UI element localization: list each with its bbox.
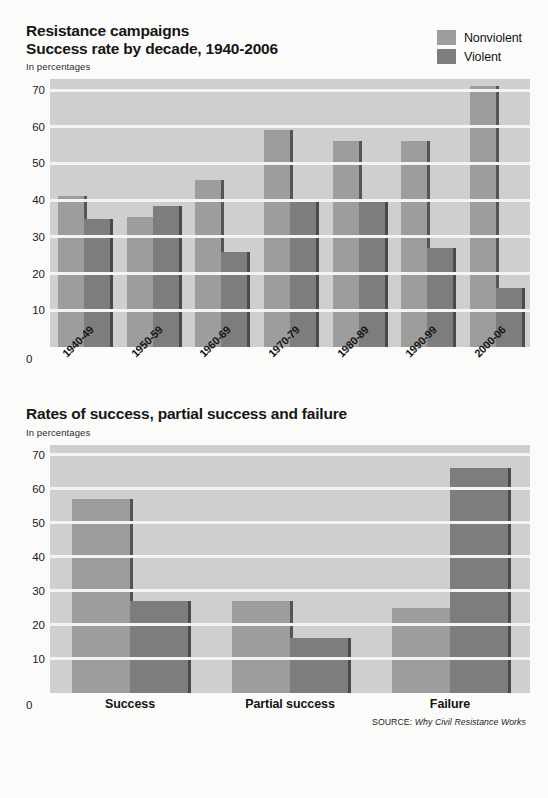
y-axis-tick-60: 60 bbox=[32, 483, 45, 495]
y-axis-zero-label-outcomes: 0 bbox=[26, 699, 32, 711]
x-axis-decade: 1940-491950-591960-691970-791980-891990-… bbox=[50, 347, 530, 393]
gridline-60 bbox=[50, 125, 530, 128]
legend-swatch-violent bbox=[437, 49, 456, 64]
bar-nonviolent-success bbox=[72, 499, 130, 693]
x-axis-label-slot: 1950-59 bbox=[119, 347, 188, 393]
legend-swatch-nonviolent bbox=[437, 30, 456, 45]
legend-item-nonviolent: Nonviolent bbox=[437, 30, 522, 45]
x-axis-label-failure: Failure bbox=[370, 697, 530, 711]
title-line-1-2: Rates of success, partial success and fa… bbox=[26, 405, 548, 423]
x-axis-label-success: Success bbox=[50, 697, 210, 711]
plot-area-decade: 10203040506070 1940-491950-591960-691970… bbox=[0, 79, 548, 393]
bar-group bbox=[324, 79, 393, 347]
bar-nonviolent-failure bbox=[392, 608, 450, 693]
bar-group bbox=[50, 79, 119, 347]
plot-area-outcomes: 10203040506070 SuccessPartial successFai… bbox=[0, 445, 548, 739]
bar-series-outcomes bbox=[50, 445, 530, 693]
y-axis-outcomes: 10203040506070 bbox=[26, 445, 50, 693]
chart-panel-outcomes: Rates of success, partial success and fa… bbox=[0, 393, 548, 739]
bar-violent-success bbox=[130, 601, 188, 693]
chart-panel-decade: Resistance campaigns Success rate by dec… bbox=[0, 0, 548, 393]
gridline-60 bbox=[50, 487, 530, 490]
y-axis-tick-40: 40 bbox=[32, 194, 45, 206]
bar-nonviolent-partial-success bbox=[232, 601, 290, 693]
x-axis-label-slot: 1970-79 bbox=[256, 347, 325, 393]
chart-header: Resistance campaigns Success rate by dec… bbox=[0, 22, 548, 72]
y-axis-tick-10: 10 bbox=[32, 304, 45, 316]
x-axis-label-partial-success: Partial success bbox=[210, 697, 370, 711]
gridline-10 bbox=[50, 657, 530, 660]
x-axis-label-slot: 1960-69 bbox=[187, 347, 256, 393]
bar-series-decade bbox=[50, 79, 530, 347]
gridline-10 bbox=[50, 309, 530, 312]
bar-group bbox=[256, 79, 325, 347]
x-axis-label-slot: Failure bbox=[370, 693, 530, 739]
chart-subtitle-2: In percentages bbox=[26, 427, 548, 438]
bar-group bbox=[119, 79, 188, 347]
y-axis-tick-10: 10 bbox=[32, 653, 45, 665]
gridline-20 bbox=[50, 272, 530, 275]
x-axis-outcomes: SuccessPartial successFailure bbox=[50, 693, 530, 739]
legend-label-violent: Violent bbox=[464, 50, 501, 64]
gridline-40 bbox=[50, 199, 530, 202]
y-axis-tick-30: 30 bbox=[32, 585, 45, 597]
bar-group bbox=[210, 445, 370, 693]
y-axis-tick-50: 50 bbox=[32, 517, 45, 529]
y-axis-tick-50: 50 bbox=[32, 157, 45, 169]
y-axis-tick-30: 30 bbox=[32, 231, 45, 243]
bar-nonviolent-1960-69 bbox=[195, 180, 221, 347]
infographic-page: Resistance campaigns Success rate by dec… bbox=[0, 0, 548, 798]
gridline-70 bbox=[50, 89, 530, 92]
x-axis-label-slot: Partial success bbox=[210, 693, 370, 739]
source-work-title: Why Civil Resistance Works bbox=[415, 717, 526, 727]
x-axis-label-slot: Success bbox=[50, 693, 210, 739]
bar-group bbox=[50, 445, 210, 693]
gridline-30 bbox=[50, 235, 530, 238]
gridline-40 bbox=[50, 555, 530, 558]
y-axis-tick-20: 20 bbox=[32, 268, 45, 280]
x-axis-label-slot: 2000-06 bbox=[461, 347, 530, 393]
plot-canvas-decade bbox=[50, 79, 530, 347]
chart-header-2: Rates of success, partial success and fa… bbox=[0, 405, 548, 438]
plot-canvas-outcomes bbox=[50, 445, 530, 693]
x-axis-label-slot: 1980-89 bbox=[324, 347, 393, 393]
x-axis-label-slot: 1990-99 bbox=[393, 347, 462, 393]
gridline-30 bbox=[50, 589, 530, 592]
legend-label-nonviolent: Nonviolent bbox=[464, 31, 522, 45]
bar-group bbox=[370, 445, 530, 693]
bar-violent-partial-success bbox=[290, 638, 348, 692]
bar-nonviolent-1990-99 bbox=[401, 141, 427, 347]
y-axis-tick-20: 20 bbox=[32, 619, 45, 631]
x-axis-label-slot: 1940-49 bbox=[50, 347, 119, 393]
gridline-20 bbox=[50, 623, 530, 626]
legend-item-violent: Violent bbox=[437, 49, 522, 64]
source-prefix: SOURCE: bbox=[372, 717, 415, 727]
y-axis-zero-label-decade: 0 bbox=[26, 353, 32, 365]
bar-nonviolent-1980-89 bbox=[333, 141, 359, 347]
gridline-70 bbox=[50, 453, 530, 456]
bar-group bbox=[461, 79, 530, 347]
y-axis-tick-70: 70 bbox=[32, 449, 45, 461]
gridline-50 bbox=[50, 162, 530, 165]
bar-group bbox=[393, 79, 462, 347]
bar-group bbox=[187, 79, 256, 347]
gridline-50 bbox=[50, 521, 530, 524]
source-note: SOURCE: Why Civil Resistance Works bbox=[372, 717, 526, 727]
page-title-2: Rates of success, partial success and fa… bbox=[26, 405, 548, 423]
y-axis-decade: 10203040506070 bbox=[26, 79, 50, 347]
y-axis-tick-70: 70 bbox=[32, 84, 45, 96]
y-axis-tick-60: 60 bbox=[32, 121, 45, 133]
y-axis-tick-40: 40 bbox=[32, 551, 45, 563]
chart-legend: Nonviolent Violent bbox=[437, 30, 522, 64]
